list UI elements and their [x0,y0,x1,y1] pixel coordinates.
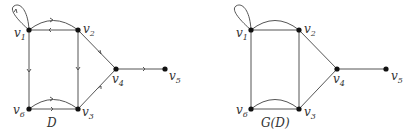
label-v5: v5 [391,69,403,85]
node-v3 [296,106,301,111]
arrow-icon [14,9,17,13]
node-v1 [26,27,31,32]
digraph-d: v1 v2 v3 v4 v5 v6 D [12,5,180,130]
node-v5 [383,66,388,71]
edge-v1-v2-curved [29,21,78,31]
label-v2: v2 [83,22,95,38]
label-v1: v1 [236,26,248,42]
label-v4: v4 [112,72,124,88]
edge-v1-v2-curved [251,21,299,31]
label-v5: v5 [169,69,181,85]
label-v6: v6 [236,103,248,119]
node-v4 [334,66,339,71]
graph-figure: v1 v2 v3 v4 v5 v6 D v1 v2 v3 v4 v5 v6 G(… [0,0,417,133]
edge-v3-v4 [78,69,116,109]
underlying-graph-gd: v1 v2 v3 v4 v5 v6 G(D) [234,5,402,130]
node-v6 [248,106,253,111]
arrow-icon [50,97,53,101]
label-v2: v2 [304,22,316,38]
label-v4: v4 [333,72,345,88]
node-v4 [113,66,118,71]
label-v6: v6 [13,103,25,119]
label-v3: v3 [82,105,94,121]
node-v5 [162,66,167,71]
arrow-icon [98,86,101,89]
label-v1: v1 [14,26,26,42]
edge-v6-v3-curved [251,100,299,110]
node-v3 [75,106,80,111]
caption-gd: G(D) [261,116,290,130]
edge-v6-v3-curved [29,100,78,110]
label-v3: v3 [304,105,316,121]
node-v6 [26,106,31,111]
edge-v3-v4 [299,69,337,109]
node-v1 [248,27,253,32]
node-v2 [75,27,80,32]
arrow-icon [50,18,53,22]
caption-d: D [46,116,57,130]
node-v2 [296,27,301,32]
